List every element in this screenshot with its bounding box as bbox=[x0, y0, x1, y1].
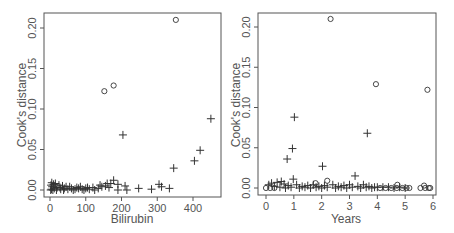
circle-marker bbox=[325, 178, 330, 183]
x-axis-label: Years bbox=[331, 212, 361, 226]
y-tick-label: 0.20 bbox=[26, 17, 38, 38]
circle-marker bbox=[102, 89, 107, 94]
x-tick-label: 5 bbox=[402, 200, 408, 212]
plus-marker bbox=[319, 162, 327, 170]
circle-marker bbox=[378, 185, 383, 190]
y-tick-label: 0.00 bbox=[26, 179, 38, 200]
plus-marker bbox=[75, 184, 83, 192]
plus-marker bbox=[165, 184, 173, 192]
circle-marker bbox=[383, 185, 388, 190]
plot-frame bbox=[258, 13, 436, 195]
cooks-distance-figure: 0.000.050.100.150.20 0100200300400 Bilir… bbox=[0, 0, 454, 233]
x-tick-label: 2 bbox=[319, 200, 325, 212]
plus-marker bbox=[148, 185, 156, 193]
plus-marker bbox=[119, 131, 127, 139]
y-tick-label: 0.20 bbox=[240, 16, 252, 37]
circle-marker bbox=[425, 87, 430, 92]
x-axis-label: Bilirubin bbox=[111, 212, 154, 226]
plus-marker bbox=[207, 115, 215, 123]
x-tick-label: 3 bbox=[346, 200, 352, 212]
plus-marker bbox=[289, 175, 297, 183]
y-axis-label: Cook's distance bbox=[15, 63, 29, 148]
x-tick-label: 100 bbox=[77, 202, 95, 214]
circle-marker bbox=[373, 82, 378, 87]
plus-marker bbox=[283, 155, 291, 163]
data-points bbox=[263, 16, 432, 192]
x-tick-label: 0 bbox=[263, 200, 269, 212]
plus-marker bbox=[363, 129, 371, 137]
plus-marker bbox=[67, 184, 75, 192]
y-tick-label: 0.00 bbox=[240, 177, 252, 198]
panel-years: 0.000.050.100.150.20 0123456 Years Cook'… bbox=[229, 13, 436, 226]
plus-marker bbox=[290, 113, 298, 121]
x-axis: 0123456 bbox=[263, 195, 436, 212]
plus-marker bbox=[123, 186, 131, 194]
plus-marker bbox=[396, 183, 404, 191]
plus-marker bbox=[85, 185, 93, 193]
x-tick-label: 1 bbox=[291, 200, 297, 212]
plus-marker bbox=[114, 186, 122, 194]
panel-bilirubin: 0.000.050.100.150.20 0100200300400 Bilir… bbox=[15, 13, 221, 226]
x-tick-label: 6 bbox=[430, 200, 436, 212]
plus-marker bbox=[190, 157, 198, 165]
plus-marker bbox=[288, 145, 296, 153]
circle-marker bbox=[328, 16, 333, 21]
plus-marker bbox=[196, 146, 204, 154]
plus-marker bbox=[170, 164, 178, 172]
y-axis-label: Cook's distance bbox=[229, 63, 243, 148]
plus-marker bbox=[105, 184, 113, 192]
plot-frame bbox=[44, 13, 221, 197]
circle-marker bbox=[111, 83, 116, 88]
plus-marker bbox=[82, 184, 90, 192]
data-points bbox=[47, 17, 215, 194]
plus-marker bbox=[384, 183, 392, 191]
circle-marker bbox=[173, 17, 178, 22]
plus-marker bbox=[135, 184, 143, 192]
x-tick-label: 400 bbox=[184, 202, 202, 214]
plus-marker bbox=[121, 182, 129, 190]
plus-marker bbox=[351, 172, 359, 180]
x-tick-label: 0 bbox=[47, 202, 53, 214]
x-tick-label: 4 bbox=[374, 200, 380, 212]
